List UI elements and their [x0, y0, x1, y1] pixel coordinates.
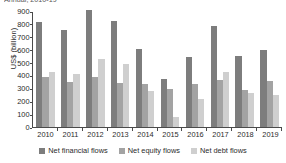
y-tick-mark — [30, 76, 33, 77]
y-tick-mark — [30, 12, 33, 13]
legend-item[interactable]: Net equity flows — [119, 147, 180, 155]
x-tick-label: 2010 — [33, 130, 58, 139]
chart-legend: Net financial flowsNet equity flowsNet d… — [0, 147, 286, 155]
x-tick-label: 2019 — [258, 130, 283, 139]
legend-swatch-icon — [119, 148, 125, 154]
bar-group — [257, 12, 282, 127]
y-tick-mark — [30, 50, 33, 51]
x-tick-label: 2017 — [208, 130, 233, 139]
x-tick-label: 2015 — [158, 130, 183, 139]
bar — [148, 91, 154, 127]
legend-item[interactable]: Net debt flows — [191, 147, 247, 155]
clipped-chart-title: Annual, 2010-19 — [4, 0, 204, 4]
bar-group — [33, 12, 58, 127]
y-tick-label: 400 — [17, 73, 29, 80]
legend-label: Net financial flows — [48, 147, 108, 155]
y-tick-label: 700 — [17, 34, 29, 41]
x-tick-label: 2011 — [58, 130, 83, 139]
x-tick-label: 2018 — [233, 130, 258, 139]
y-tick-mark — [30, 102, 33, 103]
legend-item[interactable]: Net financial flows — [39, 147, 108, 155]
bar — [123, 64, 129, 127]
y-tick-mark — [30, 115, 33, 116]
legend-swatch-icon — [191, 148, 197, 154]
y-tick-mark — [30, 37, 33, 38]
bar-groups — [33, 12, 282, 127]
bar-group — [232, 12, 257, 127]
bar-group — [108, 12, 133, 127]
x-tick-label: 2012 — [83, 130, 108, 139]
bar-group — [58, 12, 83, 127]
legend-label: Net debt flows — [200, 147, 247, 155]
bar — [73, 74, 79, 127]
y-tick-label: 300 — [17, 86, 29, 93]
bar-group — [158, 12, 183, 127]
bar — [273, 95, 279, 127]
bar — [248, 93, 254, 127]
x-tick-label: 2016 — [183, 130, 208, 139]
y-tick-mark — [30, 63, 33, 64]
bar-group — [83, 12, 108, 127]
bar-group — [207, 12, 232, 127]
legend-swatch-icon — [39, 148, 45, 154]
bar — [223, 72, 229, 127]
y-tick-mark — [30, 24, 33, 25]
bar — [198, 99, 204, 127]
legend-label: Net equity flows — [128, 147, 180, 155]
y-tick-label: 800 — [17, 21, 29, 28]
bar — [173, 117, 179, 127]
bar — [98, 59, 104, 127]
y-tick-label: 900 — [17, 8, 29, 15]
x-axis-labels: 2010201120122013201420152016201720182019 — [33, 130, 283, 139]
bar-group — [182, 12, 207, 127]
y-tick-mark — [30, 128, 33, 129]
plot-area: 9008007006005004003002001000 — [32, 12, 282, 128]
y-tick-label: 500 — [17, 60, 29, 67]
bar-group — [133, 12, 158, 127]
y-axis-label: US$ (billion) — [9, 14, 18, 84]
x-tick-label: 2014 — [133, 130, 158, 139]
y-tick-label: 100 — [17, 111, 29, 118]
y-tick-label: 200 — [17, 99, 29, 106]
chart-figure: Annual, 2010-19 US$ (billion) 9008007006… — [0, 0, 286, 163]
x-tick-label: 2013 — [108, 130, 133, 139]
y-tick-label: 600 — [17, 47, 29, 54]
y-tick-mark — [30, 89, 33, 90]
bar — [49, 72, 55, 127]
